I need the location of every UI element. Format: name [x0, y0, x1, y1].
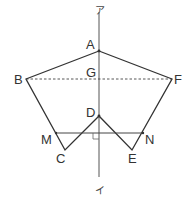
point-n-dot	[142, 132, 144, 134]
label-f: F	[174, 72, 182, 87]
axis-top-label: ア	[95, 5, 105, 16]
diagram-canvas: ア イ A B G F D M N C E	[0, 0, 189, 202]
label-n: N	[145, 132, 154, 147]
point-m-dot	[55, 132, 57, 134]
label-c: C	[56, 151, 65, 166]
axis-bottom-label: イ	[95, 185, 105, 196]
right-angle-marker	[93, 133, 99, 139]
label-d: D	[86, 105, 95, 120]
label-g: G	[86, 65, 96, 80]
label-m: M	[41, 132, 52, 147]
point-a-dot	[98, 50, 101, 53]
label-b: B	[14, 72, 23, 87]
point-d-dot	[98, 115, 101, 118]
label-e: E	[128, 151, 137, 166]
label-a: A	[86, 37, 95, 52]
geometry-figure: ア イ A B G F D M N C E	[0, 0, 189, 202]
